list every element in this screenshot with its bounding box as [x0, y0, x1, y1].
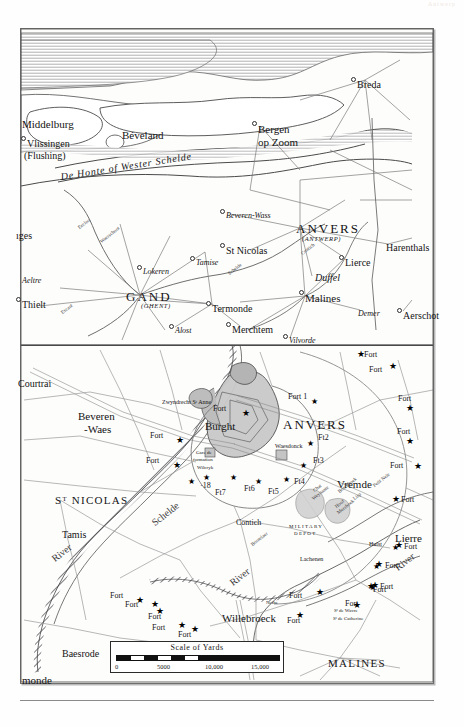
inset-place-label: Baesrode: [62, 649, 99, 659]
fort-star-icon: ★: [311, 398, 318, 406]
inset-place-label: DEPOT: [294, 531, 317, 536]
fort-label: Fort: [364, 351, 377, 359]
fort-star-icon: ★: [392, 544, 399, 552]
upper-place-label: Harenthals: [386, 243, 429, 253]
inset-place-label: Sᵀ NICOLAS: [55, 495, 129, 506]
inset-place-label: MALINES: [328, 658, 386, 669]
upper-place-label: Termonde: [212, 304, 252, 314]
fort-star-icon: ★: [369, 584, 376, 592]
scale-tick-label: 10,000: [205, 663, 223, 670]
inset-place-label: Ft6: [244, 485, 255, 493]
upper-place-label: Duffel: [315, 273, 340, 283]
town-dot: [220, 209, 225, 214]
upper-place-label: Malines: [305, 293, 340, 304]
upper-place-label: Alost: [175, 327, 191, 335]
inset-place-label: Gare de: [196, 450, 212, 455]
inset-place-label: Zwyndrecht Sᵗ Anne: [162, 399, 211, 405]
fort-star-icon: ★: [173, 461, 181, 470]
fort-star-icon: ★: [296, 611, 304, 620]
fort-label: Fort: [289, 592, 302, 600]
inset-place-label: monde: [22, 675, 52, 686]
town-dot: [252, 121, 257, 126]
fort-star-icon: ★: [242, 409, 250, 418]
inset-place-label: Ft5: [268, 488, 279, 496]
upper-place-label: Lierce: [345, 258, 371, 268]
inset-place-label: Sᵗ de Catherine: [333, 616, 363, 621]
fort-label: Fort: [178, 631, 191, 639]
scale-tick-label: 15,000: [251, 663, 269, 670]
upper-place-label: Middelburg: [22, 119, 74, 130]
scale-bar-segments: [116, 655, 280, 661]
town-dot: [137, 265, 142, 270]
inset-place-label: formation: [193, 457, 213, 462]
upper-place-label: (ANTWERP): [302, 236, 341, 243]
inset-map-frame: [21, 345, 433, 682]
fort-star-icon: ★: [353, 601, 361, 610]
scale-bar-title: Scale of Yards: [111, 643, 283, 652]
inset-place-label: Ft7: [215, 489, 226, 497]
upper-place-label: op Zoom: [258, 137, 298, 148]
inset-place-label: Tamis: [62, 530, 86, 540]
fort-star-icon: ★: [307, 440, 314, 448]
upper-place-label: Beveren-Wass: [226, 212, 271, 220]
inset-place-label: ·18: [200, 482, 211, 490]
fort-star-icon: ★: [230, 474, 237, 482]
fort-star-icon: ★: [406, 437, 414, 446]
upper-place-label: ANVERS: [296, 222, 360, 235]
upper-place-label: Bergen: [258, 124, 290, 135]
town-dot: [226, 322, 231, 327]
upper-place-label: Aeltre: [22, 277, 41, 285]
fort-label: Fort: [385, 562, 398, 570]
inset-place-label: Waesdonck: [275, 443, 303, 449]
upper-place-label: Lokeren: [143, 268, 169, 276]
town-dot: [21, 136, 26, 141]
upper-place-label: Demer: [358, 310, 380, 318]
fort-star-icon: ★: [316, 588, 324, 597]
fort-label: Fort: [404, 543, 417, 551]
inset-place-label: Wilcryk: [197, 465, 213, 470]
fort-star-icon: ★: [283, 476, 290, 484]
town-dot: [220, 243, 225, 248]
inset-place-label: Lachenen: [300, 556, 323, 562]
upper-map-body: [21, 29, 433, 345]
upper-place-label: Breda: [357, 80, 381, 90]
town-dot: [190, 256, 195, 261]
fort-star-icon: ★: [188, 478, 195, 486]
inset-place-label: Burght: [205, 421, 235, 432]
fort-star-icon: ★: [357, 350, 365, 359]
inset-place-label: Fort 1: [288, 393, 307, 401]
fort-star-icon: ★: [156, 607, 164, 616]
inset-place-label: ANVERS: [283, 418, 347, 431]
upper-place-label: Merchtem: [232, 325, 273, 335]
map-plate-page: Antwerp: [0, 0, 464, 727]
fort-star-icon: ★: [389, 362, 397, 371]
upper-place-label: Aerschot: [403, 311, 439, 321]
town-dot: [16, 297, 21, 302]
inset-place-label: Ft3: [313, 457, 324, 465]
inset-place-label: MILITARY: [289, 524, 323, 529]
scale-tick-label: 0: [115, 663, 118, 670]
inset-place-label: Beveren: [78, 411, 115, 422]
fort-star-icon: ★: [373, 563, 380, 571]
fort-star-icon: ★: [406, 404, 414, 413]
inset-place-label: Courtrai: [18, 379, 51, 389]
town-dot: [206, 301, 211, 306]
scale-bar-ticks: 0500010,00015,000: [111, 663, 283, 673]
fort-label: Fort: [398, 395, 411, 403]
upper-place-label: ıges: [16, 231, 32, 241]
fort-label: Fort: [369, 366, 382, 374]
upper-place-label: Thielt: [22, 300, 46, 310]
upper-place-label: Vlissingen: [27, 139, 70, 149]
town-dot: [169, 324, 174, 329]
inset-place-label: Contich: [236, 519, 261, 527]
inset-place-label: Willebroeck: [222, 613, 276, 624]
fort-star-icon: ★: [178, 621, 186, 630]
inset-place-label: Ft4: [294, 478, 305, 486]
upper-place-label: Béveland: [122, 130, 164, 141]
fort-star-icon: ★: [191, 625, 199, 634]
fort-star-icon: ★: [300, 462, 307, 470]
inset-place-label: Nethe: [266, 600, 278, 605]
upper-place-label: Vilvorde: [289, 337, 316, 345]
fort-star-icon: ★: [176, 436, 184, 445]
fort-star-icon: ★: [414, 462, 422, 471]
